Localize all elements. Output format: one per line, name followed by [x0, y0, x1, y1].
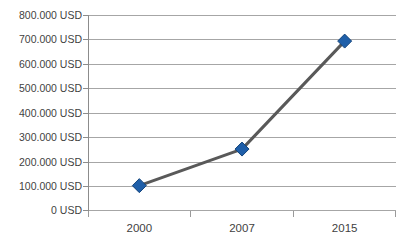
data-point-marker[interactable] [132, 179, 146, 193]
series-markers [132, 34, 351, 193]
x-tick-label: 2000 [99, 222, 179, 235]
x-tick-label: 2007 [202, 222, 282, 235]
series-line [139, 41, 344, 186]
line-chart: 800.000 USD 700.000 USD 600.000 USD 500.… [0, 0, 404, 251]
x-tick-label: 2015 [305, 222, 385, 235]
data-series-layer [0, 0, 404, 251]
